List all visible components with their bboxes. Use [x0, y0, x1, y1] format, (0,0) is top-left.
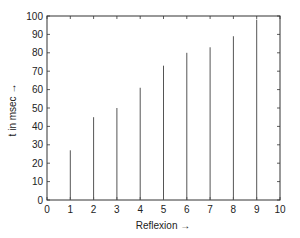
y-tick-label: 0 [37, 195, 43, 206]
y-axis-label: t in msec → [7, 84, 18, 137]
x-tick-label: 3 [114, 204, 120, 215]
x-tick-label: 1 [68, 204, 74, 215]
stem-chart: 0102030405060708090100 012345678910 Refl… [0, 0, 300, 238]
x-axis-label: Reflexion → [136, 220, 190, 231]
data-series [70, 20, 256, 200]
x-tick-label: 7 [207, 204, 213, 215]
y-tick-label: 100 [26, 11, 43, 22]
x-tick-label: 10 [274, 204, 286, 215]
y-tick-label: 10 [32, 176, 44, 187]
x-axis: 012345678910 [44, 16, 286, 215]
x-tick-label: 0 [44, 204, 50, 215]
x-tick-label: 9 [254, 204, 260, 215]
y-tick-label: 90 [32, 29, 44, 40]
y-tick-label: 30 [32, 139, 44, 150]
y-tick-label: 70 [32, 66, 44, 77]
x-tick-label: 8 [231, 204, 237, 215]
y-tick-label: 40 [32, 121, 44, 132]
x-tick-label: 6 [184, 204, 190, 215]
x-tick-label: 5 [161, 204, 167, 215]
y-tick-label: 80 [32, 47, 44, 58]
x-tick-label: 2 [91, 204, 97, 215]
y-tick-label: 20 [32, 158, 44, 169]
y-tick-label: 50 [32, 103, 44, 114]
x-tick-label: 4 [137, 204, 143, 215]
y-axis: 0102030405060708090100 [26, 11, 280, 206]
y-tick-label: 60 [32, 84, 44, 95]
